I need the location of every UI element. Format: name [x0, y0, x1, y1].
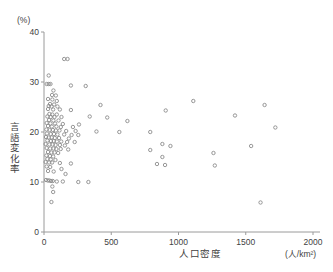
x-tick-label: 2000 — [298, 238, 328, 247]
data-point — [70, 133, 73, 136]
tick-marks — [41, 32, 313, 235]
data-point — [58, 161, 61, 164]
data-point — [95, 130, 98, 133]
data-point — [164, 109, 167, 112]
data-point — [55, 99, 58, 102]
data-point — [54, 158, 57, 161]
data-point — [60, 140, 63, 143]
scatter-plot-figure: (%) 言語変化率 人口密度 (人/km²) 010203040 0500100… — [0, 0, 333, 272]
data-point — [126, 119, 129, 122]
data-point — [51, 190, 54, 193]
data-point — [51, 185, 54, 188]
data-point — [73, 140, 76, 143]
x-tick-label: 1500 — [231, 238, 261, 247]
data-point — [50, 93, 53, 96]
data-point — [50, 200, 53, 203]
data-point — [259, 201, 262, 204]
data-point — [47, 118, 50, 121]
y-axis-unit-label: (%) — [17, 16, 30, 25]
data-point — [64, 172, 67, 175]
data-point — [249, 144, 252, 147]
data-point — [45, 165, 48, 168]
data-point — [149, 148, 152, 151]
data-point — [53, 115, 56, 118]
data-point — [169, 144, 172, 147]
y-tick-label: 0 — [17, 228, 39, 237]
x-tick-label: 500 — [96, 238, 126, 247]
data-point — [163, 163, 166, 166]
data-point — [46, 169, 49, 172]
data-point — [46, 139, 49, 142]
data-point — [62, 57, 65, 60]
data-point — [71, 125, 74, 128]
data-point — [69, 162, 72, 165]
data-point — [59, 147, 62, 150]
data-point — [118, 130, 121, 133]
data-point — [55, 125, 58, 128]
data-point — [233, 114, 236, 117]
data-point — [56, 105, 59, 108]
y-tick-label: 40 — [17, 28, 39, 37]
y-tick-label: 20 — [17, 128, 39, 137]
data-point — [67, 137, 70, 140]
data-point — [88, 115, 91, 118]
data-point — [63, 144, 66, 147]
data-point — [55, 180, 58, 183]
data-point — [58, 143, 61, 146]
data-point — [48, 165, 51, 168]
data-point — [60, 167, 63, 170]
data-point — [155, 162, 158, 165]
data-point — [213, 164, 216, 167]
data-point — [61, 180, 64, 183]
x-axis-unit-label: (人/km²) — [285, 250, 316, 259]
x-axis-title: 人口密度 — [179, 249, 221, 259]
data-point — [56, 133, 59, 136]
data-point — [52, 89, 55, 92]
data-point — [52, 170, 55, 173]
y-tick-label: 30 — [17, 78, 39, 87]
data-point — [58, 108, 61, 111]
data-point — [58, 129, 61, 132]
data-point — [45, 154, 48, 157]
data-point — [84, 84, 87, 87]
data-point — [263, 103, 266, 106]
data-point — [59, 125, 62, 128]
data-point — [46, 124, 49, 127]
data-point — [51, 98, 54, 101]
data-point — [161, 155, 164, 158]
data-point — [46, 115, 49, 118]
data-point — [69, 84, 72, 87]
data-point — [64, 129, 67, 132]
plot-canvas — [0, 0, 333, 272]
data-point — [45, 132, 48, 135]
data-point — [51, 108, 54, 111]
data-point — [77, 123, 80, 126]
x-tick-label: 1000 — [164, 238, 194, 247]
data-point — [47, 74, 50, 77]
x-tick-label: 0 — [29, 238, 59, 247]
data-point — [161, 142, 164, 145]
y-tick-label: 10 — [17, 178, 39, 187]
data-point-group — [44, 57, 277, 204]
data-point — [274, 126, 277, 129]
data-point — [66, 57, 69, 60]
data-point — [62, 133, 65, 136]
data-point — [56, 151, 59, 154]
data-point — [67, 148, 70, 151]
data-point — [54, 94, 57, 97]
data-point — [149, 130, 152, 133]
data-point — [192, 99, 195, 102]
data-point — [57, 119, 60, 122]
data-point — [46, 97, 49, 100]
data-point — [77, 133, 80, 136]
data-point — [87, 180, 90, 183]
data-point — [46, 150, 49, 153]
data-point — [74, 129, 77, 132]
data-point — [77, 180, 80, 183]
data-point — [69, 108, 72, 111]
data-point — [212, 151, 215, 154]
data-point — [57, 136, 60, 139]
data-point — [45, 146, 48, 149]
data-point — [99, 103, 102, 106]
data-point — [65, 140, 68, 143]
